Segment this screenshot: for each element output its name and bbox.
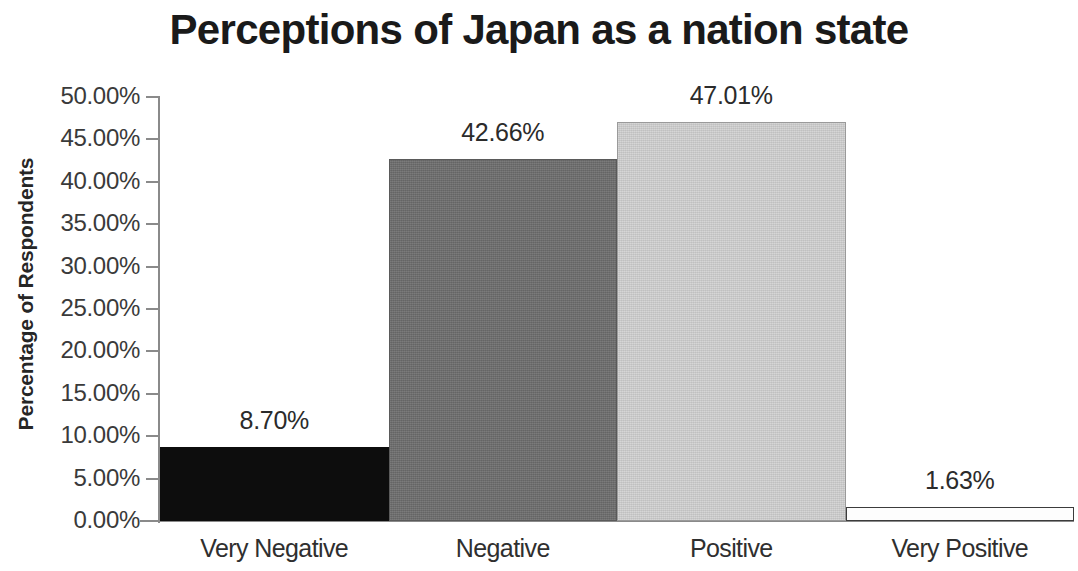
y-axis-tick-label: 35.00% [60,209,140,237]
plot-area [160,97,1074,521]
data-label: 8.70% [160,406,389,435]
y-axis-tick-label: 50.00% [60,82,140,110]
y-axis-tick-mark [146,138,159,140]
y-axis-tick-mark [146,520,159,522]
y-axis-tick-label: 5.00% [73,464,140,492]
y-axis-title: Percentage of Respondents [14,124,38,464]
x-axis-category-label: Very Negative [160,534,389,563]
y-axis-tick-label: 40.00% [60,167,140,195]
bar-chart-figure: Perceptions of Japan as a nation state P… [0,0,1078,571]
x-axis-category-label: Positive [617,534,846,563]
y-axis-tick-mark [146,266,159,268]
bar-very-positive [846,507,1075,521]
y-axis-tick-mark [146,393,159,395]
data-label: 47.01% [617,81,846,110]
y-axis-tick-mark [146,350,159,352]
y-axis-tick-label: 20.00% [60,336,140,364]
chart-title: Perceptions of Japan as a nation state [0,2,1078,58]
x-axis-category-label: Very Positive [846,534,1075,563]
y-axis-tick-mark [146,96,159,98]
data-label: 42.66% [389,118,618,147]
y-axis-tick-label: 15.00% [60,379,140,407]
y-axis-tick-label: 30.00% [60,252,140,280]
y-axis-tick-mark [146,478,159,480]
bar-very-negative [160,447,389,521]
x-axis-category-label: Negative [389,534,618,563]
bar-negative [389,159,618,521]
data-label: 1.63% [846,466,1075,495]
y-axis-tick-mark [146,223,159,225]
bar-positive [617,122,846,521]
y-axis-tick-mark [146,181,159,183]
y-axis-tick-label: 10.00% [60,421,140,449]
y-axis-tick-label: 25.00% [60,294,140,322]
y-axis-tick-label: 45.00% [60,124,140,152]
y-axis-tick-mark [146,308,159,310]
y-axis-tick-label: 0.00% [73,506,140,534]
y-axis-tick-mark [146,435,159,437]
